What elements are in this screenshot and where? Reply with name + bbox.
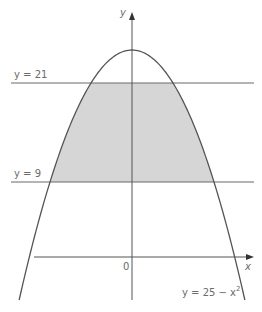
x-axis-arrow-icon xyxy=(246,254,254,260)
graph-diagram: y x 0 y = 21 y = 9 y = 25 − x2 xyxy=(0,0,262,312)
line-y21-label: y = 21 xyxy=(14,69,47,80)
x-axis-label: x xyxy=(244,261,251,272)
origin-label: 0 xyxy=(123,261,129,272)
graph-canvas: y x 0 y = 21 y = 9 y = 25 − x2 xyxy=(0,0,262,312)
y-axis-arrow-icon xyxy=(129,12,135,20)
curve-equation-label: y = 25 − x2 xyxy=(182,285,241,298)
line-y9-label: y = 9 xyxy=(14,168,41,179)
y-axis-label: y xyxy=(119,7,127,18)
